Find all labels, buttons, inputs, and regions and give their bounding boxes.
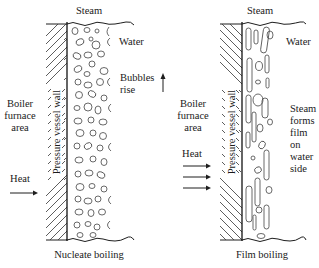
boiling-diagram: Steam (0, 0, 319, 268)
film-boiling-caption: Film boiling (236, 249, 289, 260)
steam-label: Steam (247, 5, 273, 16)
pressure-vessel-wall-label: Pressure vessel wall (226, 90, 237, 175)
heat-label: Heat (10, 173, 30, 184)
steam-film-label-1: Steam (290, 103, 316, 114)
steam-film-label-3: film (290, 127, 308, 138)
steam-film-label-4: on (290, 139, 301, 150)
pressure-vessel-wall-label: Pressure vessel wall (51, 90, 62, 175)
nucleate-boiling-caption: Nucleate boiling (54, 249, 124, 260)
wall-ticks (64, 38, 66, 180)
bubbles-rise-label-2: rise (120, 84, 136, 95)
water-label: Water (119, 36, 144, 47)
steam-label: Steam (76, 5, 102, 16)
steam-film-label-5: water (290, 151, 314, 162)
area-label: area (184, 122, 202, 133)
furnace-label: furnace (4, 110, 36, 121)
heat-arrow-icon (10, 191, 38, 196)
furnace-label: furnace (177, 110, 209, 121)
heat-arrows-icon (183, 164, 211, 191)
steam-film-label-6: side (290, 163, 307, 174)
bubbles-rise-label-1: Bubbles (120, 72, 154, 83)
nucleate-boiling-panel: Steam (4, 5, 165, 260)
boiler-label: Boiler (180, 98, 207, 109)
water-surface-top (220, 22, 306, 26)
area-label: area (11, 122, 29, 133)
water-label: Water (286, 36, 311, 47)
up-arrow-icon (161, 73, 166, 92)
film-boiling-panel: Steam (177, 5, 316, 260)
vapor-columns (246, 27, 273, 239)
boiler-label: Boiler (7, 98, 34, 109)
steam-film-label-2: forms (290, 115, 315, 126)
heat-label: Heat (182, 148, 202, 159)
wall-ticks (239, 90, 241, 172)
water-surface-top (46, 22, 134, 26)
bubbles (72, 27, 111, 238)
